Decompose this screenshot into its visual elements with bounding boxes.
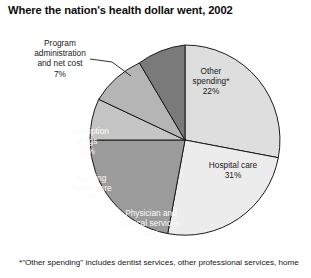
chart-footnote: *"Other spending" includes dentist servi… (19, 258, 299, 268)
pie-slice-other-spending[interactable] (185, 45, 280, 158)
pie-slice-physician-clinical-services[interactable] (90, 140, 185, 234)
pie-label-program-admin-line3: and net cost (14, 58, 106, 68)
pie-label-program-admin-line2: administration (14, 48, 106, 58)
pie-slice-hospital-care[interactable] (168, 140, 279, 235)
pie-label-program-admin-value: 7% (14, 69, 106, 79)
pie-label-program-administration: Program administration and net cost 7% (14, 38, 106, 79)
pie-chart: Other spending* 22% Hospital care 31% Ph… (0, 18, 311, 250)
pie-label-program-admin-line1: Program (14, 38, 106, 48)
page-title: Where the nation's health dollar went, 2… (8, 4, 233, 16)
